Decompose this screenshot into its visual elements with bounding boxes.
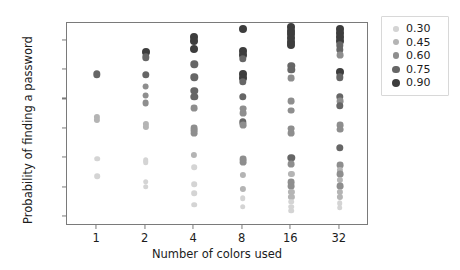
data-point (336, 73, 343, 80)
data-point (337, 200, 343, 206)
legend-item: 0.30 (386, 22, 444, 36)
legend-label: 0.45 (406, 36, 431, 49)
data-point (191, 73, 198, 80)
data-point (336, 42, 343, 49)
data-point (191, 87, 198, 94)
legend-marker-icon (393, 39, 399, 45)
x-tick-mark (193, 225, 194, 229)
data-point (191, 165, 197, 171)
data-point (288, 75, 295, 82)
data-point (191, 152, 197, 158)
data-point (94, 113, 100, 119)
legend-swatch-cell (386, 52, 406, 59)
data-point (190, 45, 198, 53)
x-tick-mark (96, 225, 97, 229)
data-point (142, 48, 150, 56)
data-point (191, 127, 198, 134)
data-point (289, 199, 295, 205)
plot-area (66, 22, 368, 225)
data-point (239, 51, 247, 59)
y-axis-ticks: 0%10%20%30%40%50%60% (0, 0, 66, 270)
x-tick-label: 8 (238, 231, 245, 245)
data-point (142, 92, 149, 99)
data-point (288, 125, 295, 132)
data-point (239, 93, 246, 100)
data-point (287, 41, 295, 49)
data-point (143, 123, 149, 129)
data-point (336, 98, 343, 105)
data-point (239, 78, 246, 85)
data-point (239, 70, 247, 78)
data-point (94, 173, 100, 179)
data-point (240, 196, 246, 202)
legend-item: 0.45 (386, 36, 444, 50)
x-axis-label: Number of colors used (66, 247, 368, 261)
data-point (289, 208, 295, 214)
data-point (142, 54, 149, 61)
x-tick-mark (338, 225, 339, 229)
data-point (287, 38, 295, 46)
data-point (142, 71, 149, 78)
data-point (336, 161, 343, 168)
scatter-plot-figure: Probability of finding a password 0%10%2… (0, 0, 460, 270)
legend-label: 0.60 (406, 49, 431, 62)
data-point (240, 204, 246, 210)
data-point (191, 61, 198, 68)
data-point (240, 186, 246, 192)
data-point (143, 184, 149, 190)
x-tick-label: 32 (332, 231, 347, 245)
data-point (337, 177, 343, 183)
legend-swatch-cell (386, 66, 406, 73)
data-point (239, 118, 246, 125)
data-point (239, 109, 246, 116)
data-point (336, 171, 343, 178)
legend-marker-icon (392, 79, 400, 87)
data-point (142, 83, 149, 90)
x-tick-label: 16 (283, 231, 298, 245)
x-tick-label: 1 (92, 231, 99, 245)
data-point (288, 161, 295, 168)
data-point (287, 34, 295, 42)
data-point (288, 62, 295, 69)
data-point (287, 30, 295, 38)
data-point (336, 126, 343, 133)
data-point (336, 52, 343, 59)
data-point (190, 37, 198, 45)
data-point (142, 99, 149, 106)
legend-item: 0.75 (386, 63, 444, 77)
data-point (288, 183, 295, 190)
data-point (288, 189, 294, 195)
legend-marker-icon (393, 52, 400, 59)
data-point (288, 66, 295, 73)
data-point (336, 144, 343, 151)
data-point (337, 194, 343, 200)
data-point (239, 105, 246, 112)
data-point (289, 204, 295, 210)
data-point (239, 47, 247, 55)
data-point (336, 121, 343, 128)
data-point (336, 93, 343, 100)
data-point (287, 27, 295, 35)
data-point (239, 25, 247, 33)
x-tick-label: 2 (141, 231, 148, 245)
legend-label: 0.90 (406, 76, 431, 89)
data-point (288, 98, 295, 105)
data-point (239, 122, 246, 129)
data-point (191, 93, 198, 100)
data-point (337, 189, 343, 195)
data-point (191, 130, 198, 137)
x-tick-label: 4 (190, 231, 197, 245)
data-point (239, 156, 246, 163)
legend-swatch-cell (386, 26, 406, 32)
data-point (336, 102, 343, 109)
data-point (191, 202, 197, 208)
data-point (191, 105, 198, 112)
legend-marker-icon (393, 26, 399, 32)
data-point (190, 33, 198, 41)
data-point (239, 159, 246, 166)
data-point (239, 74, 247, 82)
data-point (336, 46, 343, 53)
data-point (240, 172, 246, 178)
data-point (288, 130, 295, 137)
data-point (288, 194, 294, 200)
